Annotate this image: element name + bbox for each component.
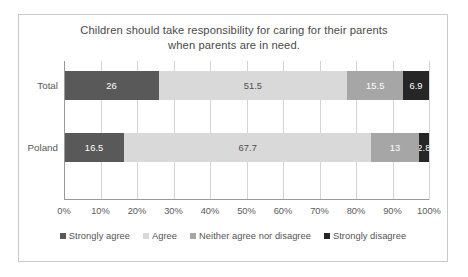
x-tick-label: 30% (154, 206, 194, 216)
legend-label: Strongly disagree (333, 231, 406, 241)
chart-legend: Strongly agreeAgreeNeither agree nor dis… (19, 231, 447, 241)
bar-segment-value-label: 13 (390, 143, 401, 153)
bar-segment-value-label: 26 (106, 81, 117, 91)
x-tick-label: 20% (117, 206, 157, 216)
bar-segment-value-label: 51.5 (244, 81, 263, 91)
bar-segment-value-label: 67.7 (239, 143, 258, 153)
x-tick-label: 40% (190, 206, 230, 216)
legend-swatch-icon (324, 233, 330, 239)
plot-area: 2651.515.56.916.567.7132.8 (64, 61, 429, 200)
bar-segment-value-label: 6.9 (409, 81, 422, 91)
x-tick-label: 60% (263, 206, 303, 216)
legend-swatch-icon (190, 233, 196, 239)
legend-label: Neither agree nor disagree (199, 231, 311, 241)
bar-segment-value-label: 16.5 (85, 143, 104, 153)
bar-segment[interactable]: 15.5 (347, 71, 404, 100)
legend-item[interactable]: Strongly disagree (324, 231, 406, 241)
gridline (429, 61, 430, 200)
x-tick-label: 80% (336, 206, 376, 216)
bar-segment[interactable]: 26 (64, 71, 159, 100)
legend-item[interactable]: Agree (143, 231, 177, 241)
chart-title-line-2: when parents are in need. (29, 38, 439, 53)
x-tick-label: 100% (409, 206, 449, 216)
legend-item[interactable]: Neither agree nor disagree (190, 231, 311, 241)
bar-segment[interactable]: 6.9 (403, 71, 428, 100)
bar-segment-value-label: 2.8 (419, 143, 429, 153)
bar-segment[interactable]: 51.5 (159, 71, 347, 100)
x-tick-label: 50% (227, 206, 267, 216)
x-axis-line (64, 199, 429, 200)
chart-title: Children should take responsibility for … (29, 23, 439, 53)
y-axis-line (64, 61, 65, 200)
legend-label: Strongly agree (69, 231, 130, 241)
bar-row: 2651.515.56.9 (64, 71, 429, 100)
category-label-poland: Poland (27, 142, 58, 153)
x-tick-label: 0% (44, 206, 84, 216)
legend-item[interactable]: Strongly agree (60, 231, 130, 241)
bar-segment[interactable]: 16.5 (64, 133, 124, 162)
x-tick-label: 10% (81, 206, 121, 216)
bar-row: 16.567.7132.8 (64, 133, 429, 162)
legend-swatch-icon (60, 233, 66, 239)
x-tick-label: 90% (373, 206, 413, 216)
legend-label: Agree (152, 231, 177, 241)
bar-segment[interactable]: 67.7 (124, 133, 371, 162)
category-label-total: Total (37, 80, 58, 91)
legend-swatch-icon (143, 233, 149, 239)
bar-segment[interactable]: 2.8 (419, 133, 429, 162)
x-tick-label: 70% (300, 206, 340, 216)
bar-segment[interactable]: 13 (371, 133, 418, 162)
chart-title-line-1: Children should take responsibility for … (80, 24, 387, 36)
bar-segment-value-label: 15.5 (366, 81, 385, 91)
chart-frame: Children should take responsibility for … (18, 14, 448, 262)
